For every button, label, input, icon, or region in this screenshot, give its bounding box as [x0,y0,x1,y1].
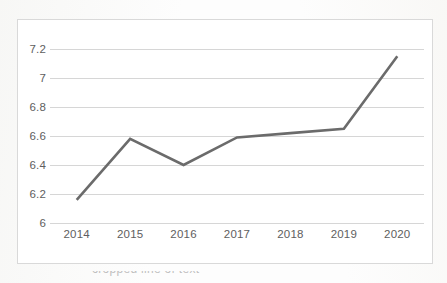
x-axis-tick-label: 2016 [170,228,196,240]
x-axis: 2014201520162017201820192020 [50,228,424,248]
y-axis: 7.276.86.66.46.26 [0,0,46,283]
line-series [50,49,424,223]
y-axis-tick-label: 6.2 [0,188,46,200]
x-axis-tick-label: 2015 [117,228,143,240]
y-axis-tick-label: 6 [0,217,46,229]
gridline [50,223,424,224]
x-axis-tick-label: 2020 [384,228,410,240]
chart-page: 7.276.86.66.46.26 2014201520162017201820… [0,0,447,283]
x-axis-tick-label: 2017 [224,228,250,240]
x-axis-tick-label: 2014 [64,228,90,240]
caption-text: cropped line of text [92,271,199,276]
x-axis-tick-label: 2019 [331,228,357,240]
y-axis-tick-label: 6.8 [0,101,46,113]
y-axis-tick-label: 7 [0,72,46,84]
y-axis-tick-label: 6.6 [0,130,46,142]
series-path [77,56,398,200]
x-axis-tick-label: 2018 [277,228,303,240]
y-axis-tick-label: 6.4 [0,159,46,171]
caption-strip: cropped line of text [0,271,447,283]
y-axis-tick-label: 7.2 [0,43,46,55]
